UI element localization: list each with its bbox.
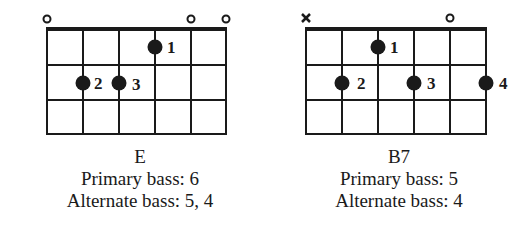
chord-diagram-b7: 1 2 3 4 B7 Primary bass: 5 Alternate bas…: [0, 0, 264, 239]
alternate-bass: Alternate bass: 4: [267, 190, 528, 212]
finger-dot: [407, 76, 422, 91]
fretboard-grid: 1 2 3 4: [0, 0, 528, 150]
chord-name: B7: [267, 146, 528, 168]
primary-bass: Primary bass: 5: [267, 168, 528, 190]
finger-dot: [371, 40, 386, 55]
finger-dot: [479, 76, 494, 91]
nut: [305, 27, 487, 31]
open-string-icon: [447, 15, 454, 22]
muted-string-icon: [302, 14, 310, 22]
finger-number: 2: [357, 74, 366, 93]
chord-caption: B7 Primary bass: 5 Alternate bass: 4: [267, 146, 528, 212]
finger-number: 1: [390, 38, 399, 57]
finger-number: 3: [427, 74, 436, 93]
finger-dot: [335, 76, 350, 91]
finger-number: 4: [499, 74, 508, 93]
